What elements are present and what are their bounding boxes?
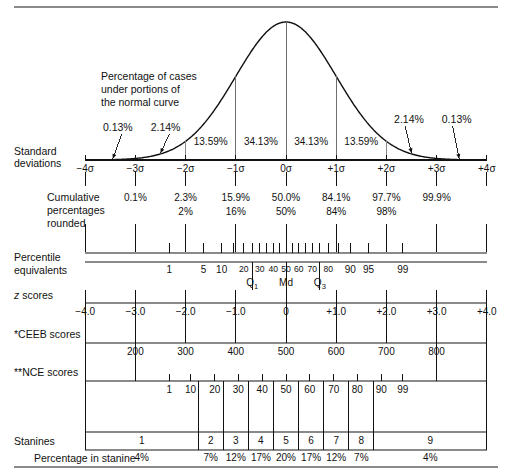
percentile-label-9: 80 — [323, 264, 333, 274]
percentile-label-1: 5 — [201, 264, 207, 276]
curve-annotation-line-1: under portions of — [101, 83, 180, 95]
percentile-label-4: 30 — [255, 264, 265, 274]
ceeb-label-2: 400 — [227, 346, 244, 358]
ceeb-label-3: 500 — [278, 346, 295, 358]
sd-tick-label-0: −4σ — [76, 163, 94, 175]
z-score-label-5: +1.0 — [326, 306, 346, 318]
callout-arrowhead-0 — [112, 154, 116, 159]
stanine-percentage-7: 7% — [354, 452, 368, 464]
ceeb-label-6: 800 — [428, 346, 445, 358]
sd-tick-label-1: −3σ — [127, 163, 145, 175]
nce-label-7: 70 — [328, 384, 339, 396]
row-label-standard-deviations-1: Standard — [14, 145, 57, 157]
curve-annotation-line-0: Percentage of cases — [101, 70, 197, 82]
stanine-percentage-3: 17% — [251, 452, 271, 464]
row-label-z-scores: z scores — [14, 289, 53, 301]
row-label-percentage-in-stanine: Percentage in stanine — [34, 452, 136, 464]
curve-annotation-line-2: the normal curve — [101, 96, 179, 108]
ceeb-label-4: 600 — [328, 346, 345, 358]
percentile-label-10: 90 — [345, 264, 356, 276]
outer-callout-3: 0.13% — [442, 113, 472, 125]
row-label-stanines: Stanines — [14, 435, 55, 447]
band-percentage-5: 13.59% — [344, 136, 378, 148]
outer-callout-0: 0.13% — [103, 121, 133, 133]
stanine-label-5: 6 — [308, 435, 314, 447]
ceeb-label-1: 300 — [177, 346, 194, 358]
quartile-label-0: Q1 — [246, 277, 258, 292]
normal-curve-figure: 13.59%34.13%34.13%13.59%Percentage of ca… — [0, 0, 512, 476]
sd-tick-label-4: 0σ — [280, 163, 292, 175]
percentile-label-3: 20 — [239, 264, 249, 274]
nce-label-1: 10 — [185, 384, 196, 396]
quartile-label-1: Md — [279, 277, 293, 289]
band-percentage-2: 13.59% — [194, 136, 228, 148]
outer-callout-2: 2.14% — [394, 113, 424, 125]
percentile-label-8: 70 — [308, 264, 318, 274]
ceeb-label-5: 700 — [378, 346, 395, 358]
stanine-label-4: 5 — [283, 435, 289, 447]
cumulative-exact-6: 99.9% — [422, 192, 450, 204]
nce-label-2: 20 — [209, 384, 220, 396]
quartile-label-2: Q3 — [314, 277, 326, 292]
sd-tick-label-5: +1σ — [327, 163, 345, 175]
stanine-label-2: 3 — [233, 435, 239, 447]
stanine-percentage-1: 7% — [203, 452, 217, 464]
nce-label-6: 60 — [304, 384, 315, 396]
sd-tick-label-2: −2σ — [177, 163, 195, 175]
sd-tick-label-7: +3σ — [428, 163, 446, 175]
nce-label-4: 40 — [257, 384, 268, 396]
percentile-label-6: 50 — [281, 264, 291, 274]
z-score-label-3: −1.0 — [226, 306, 246, 318]
stanine-label-1: 2 — [208, 435, 214, 447]
figure-vector-layer — [0, 0, 512, 476]
stanine-label-0: 1 — [139, 435, 145, 447]
stanine-percentage-5: 17% — [301, 452, 321, 464]
callout-arrowhead-3 — [456, 154, 460, 159]
callout-arrow-3 — [453, 126, 460, 159]
stanine-percentage-4: 20% — [276, 452, 296, 464]
row-label-nce-scores: **NCE scores — [14, 366, 78, 378]
cumulative-rounded-2: 50% — [276, 206, 296, 218]
stanine-percentage-8: 4% — [423, 452, 437, 464]
row-label-standard-deviations-2: deviations — [14, 157, 61, 169]
z-score-label-2: −2.0 — [176, 306, 196, 318]
percentile-label-12: 99 — [397, 264, 408, 276]
stanine-label-8: 9 — [428, 435, 434, 447]
cumulative-rounded-1: 16% — [226, 206, 246, 218]
band-percentage-4: 34.13% — [294, 136, 328, 148]
row-label-cumulative-1: percentages — [47, 204, 105, 216]
sd-tick-label-8: +4σ — [478, 163, 496, 175]
row-label-percentile-1: Percentile — [14, 251, 61, 263]
z-score-label-7: +3.0 — [427, 306, 447, 318]
cumulative-rounded-4: 98% — [376, 206, 396, 218]
stanine-percentage-2: 12% — [226, 452, 246, 464]
cumulative-exact-4: 84.1% — [322, 192, 350, 204]
stanine-label-7: 8 — [359, 435, 365, 447]
band-percentage-3: 34.13% — [244, 136, 278, 148]
z-score-label-0: −4.0 — [75, 306, 95, 318]
cumulative-exact-0: 0.1% — [124, 192, 147, 204]
percentile-label-7: 60 — [294, 264, 304, 274]
row-label-cumulative-0: Cumulative — [47, 191, 100, 203]
z-score-label-1: −3.0 — [126, 306, 146, 318]
outer-callout-1: 2.14% — [151, 121, 181, 133]
nce-label-10: 99 — [397, 384, 408, 396]
sd-tick-label-6: +2σ — [378, 163, 396, 175]
percentile-label-2: 10 — [216, 264, 227, 276]
row-label-percentile-2: equivalents — [14, 264, 67, 276]
nce-label-9: 90 — [376, 384, 387, 396]
stanine-label-6: 7 — [333, 435, 339, 447]
row-label-ceeb-scores: *CEEB scores — [14, 328, 81, 340]
cumulative-rounded-3: 84% — [326, 206, 346, 218]
percentile-label-11: 95 — [363, 264, 374, 276]
sd-tick-label-3: −1σ — [227, 163, 245, 175]
z-score-label-4: 0 — [283, 306, 289, 318]
cumulative-exact-3: 50.0% — [272, 192, 300, 204]
z-score-label-6: +2.0 — [377, 306, 397, 318]
nce-label-0: 1 — [166, 384, 172, 396]
stanine-percentage-6: 12% — [326, 452, 346, 464]
cumulative-exact-5: 97.7% — [372, 192, 400, 204]
cumulative-exact-1: 2.3% — [174, 192, 197, 204]
stanine-label-3: 4 — [258, 435, 264, 447]
stanine-percentage-0: 4% — [134, 452, 148, 464]
